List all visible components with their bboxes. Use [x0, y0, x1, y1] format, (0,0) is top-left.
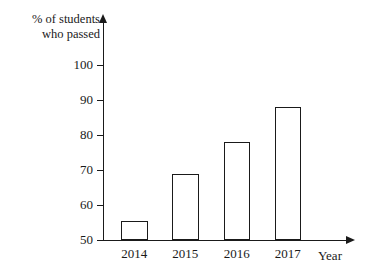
y-axis-tick-label: 100	[3, 58, 93, 71]
y-axis-tick	[97, 170, 104, 171]
y-axis-tick-label-wrap: 80	[0, 128, 93, 141]
y-axis-tick-label-wrap: 100	[0, 58, 93, 71]
y-axis-tick-label: 90	[3, 93, 93, 106]
y-axis-tick-label-wrap: 50	[0, 233, 93, 246]
y-axis-title: % of students who passed	[8, 12, 100, 42]
x-axis-arrow-icon	[346, 236, 355, 244]
y-axis-arrow-icon	[99, 14, 107, 23]
y-axis-tick-label-wrap: 60	[0, 198, 93, 211]
y-axis-tick-label-wrap: 70	[0, 163, 93, 176]
bar-chart: % of students who passed 5060708090100 2…	[0, 0, 382, 277]
x-axis-title: Year	[318, 248, 374, 263]
y-axis-tick	[97, 100, 104, 101]
y-axis-tick	[97, 240, 104, 241]
y-axis-tick	[97, 65, 104, 66]
y-axis-tick-label: 80	[3, 128, 93, 141]
y-axis-tick	[97, 135, 104, 136]
bar	[275, 107, 302, 240]
y-axis-tick-label-wrap: 90	[0, 93, 93, 106]
x-axis-tick-label: 2017	[258, 246, 318, 261]
bar	[224, 142, 251, 240]
bar	[172, 174, 199, 241]
y-axis-tick-label: 50	[3, 233, 93, 246]
bar	[121, 221, 148, 240]
y-axis-tick-label: 70	[3, 163, 93, 176]
y-axis-line	[103, 22, 104, 241]
y-axis-tick	[97, 205, 104, 206]
y-axis-tick-label: 60	[3, 198, 93, 211]
